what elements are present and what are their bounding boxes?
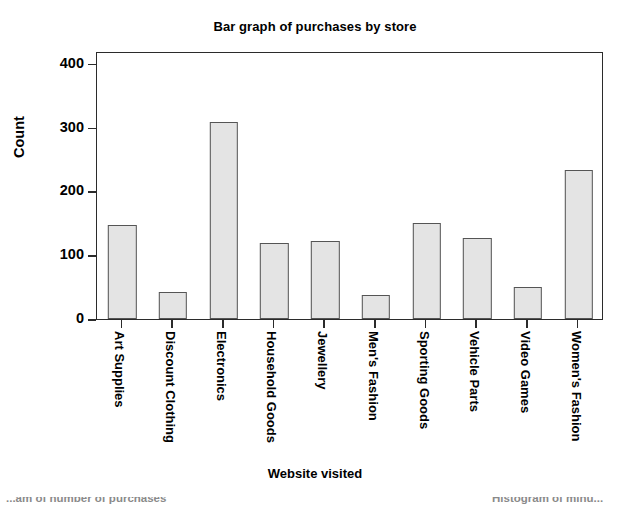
- x-tick-mark: [273, 320, 275, 328]
- x-tick-label: Discount Clothing: [163, 331, 178, 443]
- x-tick-label: Electronics: [214, 331, 229, 401]
- bar-slot: [401, 53, 452, 319]
- y-tick-mark: [88, 128, 96, 130]
- y-tick-label: 0: [76, 310, 84, 326]
- x-tick-label: Jewellery: [315, 331, 330, 390]
- plot-area: [96, 52, 603, 320]
- page-footer-strip: ...am of number of purchases Histogram o…: [0, 497, 630, 511]
- x-tick-mark: [526, 320, 528, 328]
- bar-slot: [351, 53, 402, 319]
- x-tick-label: Vehicle Parts: [467, 331, 482, 412]
- x-tick-mark: [121, 320, 123, 328]
- x-tick-mark: [374, 320, 376, 328]
- y-tick-label: 400: [60, 55, 84, 71]
- y-tick-mark: [88, 64, 96, 66]
- bar: [514, 287, 542, 319]
- bar-slot: [452, 53, 503, 319]
- bar: [463, 238, 491, 319]
- x-tick-label: Household Goods: [264, 331, 279, 443]
- x-tick-label: Sporting Goods: [417, 331, 432, 429]
- bar-slot: [97, 53, 148, 319]
- x-tick-mark: [323, 320, 325, 328]
- x-tick-label: Men's Fashion: [366, 331, 381, 421]
- x-tick-mark: [577, 320, 579, 328]
- x-tick-mark: [171, 320, 173, 328]
- bar-slot: [249, 53, 300, 319]
- x-tick-label: Video Games: [518, 331, 533, 413]
- y-axis: 0100200300400: [0, 0, 96, 511]
- x-tick-label: Art Supplies: [112, 331, 127, 408]
- x-tick-mark: [475, 320, 477, 328]
- bar: [412, 223, 440, 319]
- footer-text-left: ...am of number of purchases: [6, 497, 166, 504]
- y-tick-label: 200: [60, 182, 84, 198]
- bar: [159, 292, 187, 319]
- x-tick-mark: [425, 320, 427, 328]
- bar: [108, 225, 136, 319]
- x-axis: Art SuppliesDiscount ClothingElectronics…: [96, 320, 603, 460]
- x-tick-label: Women's Fashion: [569, 331, 584, 441]
- x-axis-title: Website visited: [0, 466, 630, 481]
- footer-text-right: Histogram of minu...: [492, 497, 603, 504]
- bar-slot: [148, 53, 199, 319]
- bar: [210, 122, 238, 319]
- y-axis-title: Count: [11, 116, 27, 158]
- bar: [311, 241, 339, 319]
- bar: [260, 243, 288, 319]
- bar-slot: [300, 53, 351, 319]
- x-tick-mark: [222, 320, 224, 328]
- bar-slot: [503, 53, 554, 319]
- y-tick-mark: [88, 255, 96, 257]
- bar-slot: [553, 53, 604, 319]
- y-tick-mark: [88, 319, 96, 321]
- bars-layer: [97, 53, 602, 319]
- bar-slot: [198, 53, 249, 319]
- y-tick-mark: [88, 191, 96, 193]
- y-tick-label: 100: [60, 246, 84, 262]
- y-tick-label: 300: [60, 119, 84, 135]
- bar: [362, 295, 390, 319]
- bar: [564, 170, 592, 319]
